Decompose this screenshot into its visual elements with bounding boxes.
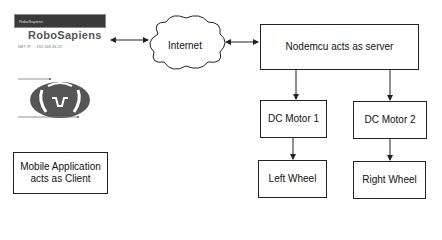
server-box: Nodemcu acts as server: [260, 24, 419, 70]
wheel-box-label: Left Wheel: [269, 173, 317, 185]
left-wheel-box: Left Wheel: [258, 160, 327, 198]
motor-box-label: DC Motor 1: [268, 113, 319, 125]
client-box: Mobile Application acts as Client: [13, 152, 108, 194]
motor-box-2: DC Motor 2: [353, 101, 427, 139]
right-wheel-box: Right Wheel: [353, 161, 426, 199]
motor-box-1: DC Motor 1: [260, 100, 327, 138]
internet-label: Internet: [160, 40, 210, 51]
server-box-label: Nodemcu acts as server: [286, 41, 394, 53]
wheel-box-label: Right Wheel: [362, 174, 416, 186]
client-box-label: Mobile Application acts as Client: [14, 161, 107, 185]
robot-logo-icon: [18, 78, 90, 118]
motor-box-label: DC Motor 2: [364, 114, 415, 126]
